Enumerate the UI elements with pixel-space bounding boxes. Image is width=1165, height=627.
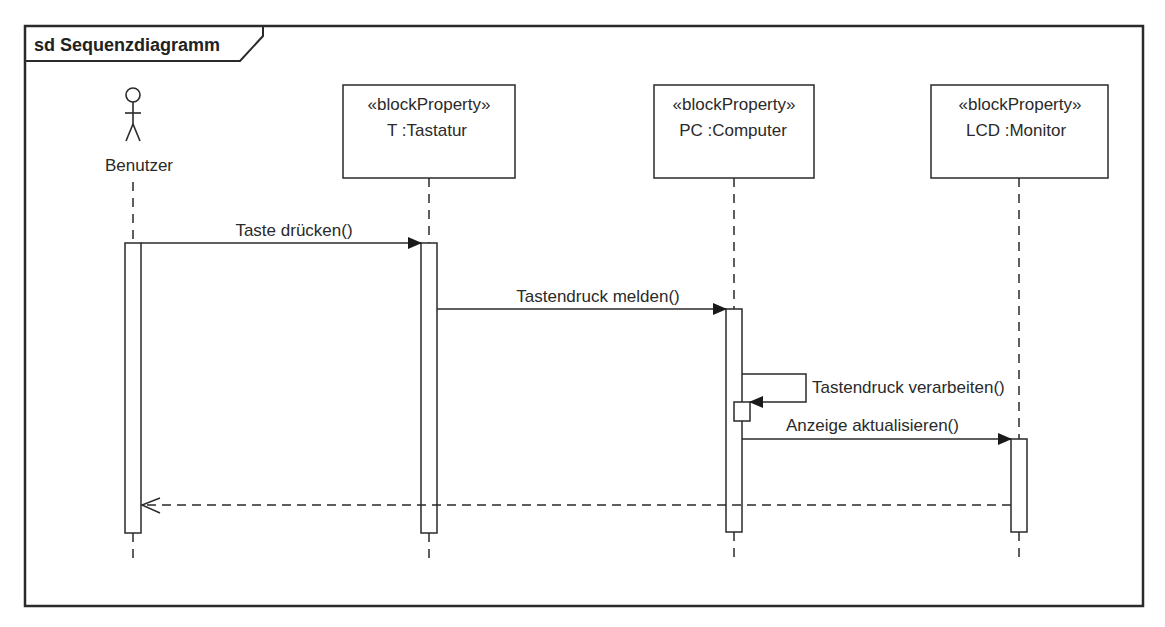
lifeline-name: LCD :Monitor — [966, 121, 1066, 140]
activation-monitor — [1011, 439, 1027, 532]
actor-benutzer[interactable]: Benutzer — [105, 88, 173, 175]
message-label: Tastendruck verarbeiten() — [812, 378, 1005, 397]
stereotype-label: «blockProperty» — [959, 95, 1082, 114]
lifeline-monitor-head[interactable]: «blockProperty» LCD :Monitor — [931, 85, 1108, 178]
message-tastendruck-melden[interactable]: Tastendruck melden() — [437, 287, 726, 309]
lifeline-name: T :Tastatur — [387, 121, 467, 140]
message-label: Tastendruck melden() — [516, 287, 679, 306]
actor-stick-figure-icon — [125, 88, 141, 141]
message-anzeige-aktualisieren[interactable]: Anzeige aktualisieren() — [742, 416, 1011, 439]
lifeline-tastatur-head[interactable]: «blockProperty» T :Tastatur — [343, 85, 515, 178]
activation-tastatur — [421, 243, 437, 533]
message-label: Anzeige aktualisieren() — [786, 416, 959, 435]
lifeline-name: PC :Computer — [679, 121, 787, 140]
stereotype-label: «blockProperty» — [673, 95, 796, 114]
lifeline-computer-head[interactable]: «blockProperty» PC :Computer — [654, 85, 814, 178]
activation-benutzer — [125, 243, 141, 533]
stereotype-label: «blockProperty» — [368, 95, 491, 114]
activation-computer-nested — [734, 402, 750, 421]
actor-name: Benutzer — [105, 156, 173, 175]
message-return[interactable] — [142, 498, 1011, 513]
frame-title: sd Sequenzdiagramm — [34, 35, 220, 55]
message-tastendruck-verarbeiten[interactable]: Tastendruck verarbeiten() — [734, 374, 1005, 421]
sequence-diagram: sd Sequenzdiagramm Benutzer «blockProper… — [0, 0, 1165, 627]
message-taste-druecken[interactable]: Taste drücken() — [141, 221, 421, 243]
message-label: Taste drücken() — [235, 221, 352, 240]
